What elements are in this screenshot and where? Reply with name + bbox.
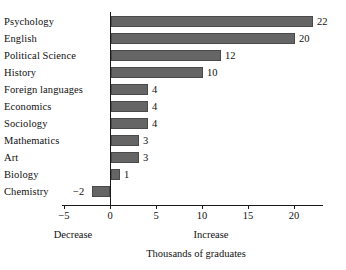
x-axis-tick-label: 20 — [279, 210, 309, 222]
bar-chemistry — [92, 186, 110, 197]
bar-value-sociology: 4 — [152, 118, 157, 129]
bar-value-psychology: 22 — [317, 16, 328, 27]
bar-foreign-languages — [111, 84, 148, 95]
x-axis-tick-label: 5 — [141, 210, 171, 222]
x-axis-tick-label: 10 — [187, 210, 217, 222]
bar-history — [111, 67, 203, 78]
bar-chart: Psychology English Political Science His… — [0, 0, 346, 270]
decrease-region-label: Decrease — [38, 229, 108, 241]
bar-political-science — [111, 50, 221, 61]
bar-english — [111, 33, 295, 44]
x-axis-tick-label: 0 — [95, 210, 125, 222]
bar-mathematics — [111, 135, 139, 146]
bar-value-biology: 1 — [124, 169, 129, 180]
x-axis-tick — [248, 205, 249, 209]
bar-value-foreign-languages: 4 — [152, 84, 157, 95]
x-axis-tick — [110, 205, 111, 209]
x-axis-tick — [64, 205, 65, 209]
x-axis-tick-label: −5 — [49, 210, 79, 222]
x-axis-tick — [156, 205, 157, 209]
x-axis-tick-label: 15 — [233, 210, 263, 222]
bar-psychology — [111, 16, 313, 27]
x-axis-tick — [294, 205, 295, 209]
x-axis-title: Thousands of graduates — [116, 248, 276, 260]
bar-value-economics: 4 — [152, 101, 157, 112]
bar-sociology — [111, 118, 148, 129]
bar-art — [111, 152, 139, 163]
x-axis-tick — [202, 205, 203, 209]
x-axis-line — [62, 205, 323, 206]
bar-value-political-science: 12 — [225, 50, 236, 61]
increase-region-label: Increase — [176, 229, 246, 241]
bar-value-chemistry: −2 — [73, 186, 84, 197]
bar-biology — [111, 169, 120, 180]
bar-value-mathematics: 3 — [143, 135, 148, 146]
bar-value-art: 3 — [143, 152, 148, 163]
bar-value-history: 10 — [207, 67, 218, 78]
bar-economics — [111, 101, 148, 112]
bar-value-english: 20 — [299, 33, 310, 44]
